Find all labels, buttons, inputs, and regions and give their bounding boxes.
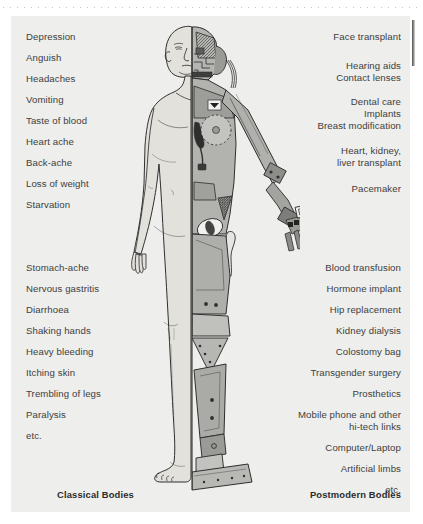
right-list-item: Hearing aids xyxy=(346,60,401,71)
right-list-item: Transgender surgery xyxy=(310,367,401,378)
page-gutter xyxy=(410,16,423,512)
left-list-item: Headaches xyxy=(26,73,75,84)
right-list-item: Blood transfusion xyxy=(325,262,401,273)
right-list-item: liver transplant xyxy=(337,157,401,168)
left-list-item: Heavy bleeding xyxy=(26,346,94,357)
page-binding-edge xyxy=(412,20,415,66)
right-list-item: Hormone implant xyxy=(326,283,401,294)
right-list-item: Computer/Laptop xyxy=(325,442,401,453)
left-list-item: Anguish xyxy=(26,52,61,63)
left-list-item: Back-ache xyxy=(26,157,72,168)
illustration-page: Depression Anguish Headaches Vomiting Ta… xyxy=(0,0,423,524)
left-list-item: Taste of blood xyxy=(26,115,87,126)
left-list-item: Depression xyxy=(26,31,76,42)
left-list-item: Starvation xyxy=(26,199,70,210)
right-list-item: Dental care xyxy=(351,96,401,107)
right-list-item: Artificial limbs xyxy=(341,463,401,474)
human-half xyxy=(132,26,192,482)
right-list-item: Implants xyxy=(364,108,401,119)
left-list-item: Paralysis xyxy=(26,409,66,420)
caption-classical-bodies: Classical Bodies xyxy=(57,489,134,500)
right-list-item: Prosthetics xyxy=(352,388,401,399)
left-list-item: Vomiting xyxy=(26,94,64,105)
left-list-item: Loss of weight xyxy=(26,178,89,189)
left-list-item: Itching skin xyxy=(26,367,75,378)
right-list-item: Mobile phone and other xyxy=(298,409,401,420)
left-list-item: Trembling of legs xyxy=(26,388,101,399)
left-list-item: Shaking hands xyxy=(26,325,91,336)
right-list-item: Heart, kidney, xyxy=(341,145,401,156)
cyborg-figure-illustration xyxy=(130,14,300,492)
right-list-item: Contact lenses xyxy=(336,72,401,83)
right-list-item: Breast modification xyxy=(318,120,401,131)
right-list-item: Hip replacement xyxy=(330,304,401,315)
left-list-item: Nervous gastritis xyxy=(26,283,99,294)
right-list-item: Face transplant xyxy=(333,31,401,42)
right-list-item: hi-tech links xyxy=(349,421,401,432)
left-list-item: etc. xyxy=(26,430,42,441)
right-list-item: Pacemaker xyxy=(352,183,401,194)
caption-postmodern-bodies: Postmodern Bodies xyxy=(310,489,401,500)
page-top-dotted-rule xyxy=(0,6,423,9)
left-list-item: Stomach-ache xyxy=(26,262,89,273)
left-list-item: Diarrhoea xyxy=(26,304,69,315)
right-list-item: Kidney dialysis xyxy=(336,325,401,336)
right-list-item: Colostomy bag xyxy=(336,346,401,357)
left-list-item: Heart ache xyxy=(26,136,74,147)
